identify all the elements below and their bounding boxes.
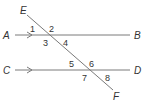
parallel-lines-diagram: E A B C D F 1 2 3 4 5 6 7 8 [0, 0, 150, 108]
transversal-ef [27, 15, 113, 90]
label-a: A [2, 30, 10, 41]
angle-3: 3 [43, 38, 48, 48]
angle-4: 4 [63, 38, 68, 48]
label-d: D [134, 65, 141, 76]
angle-6: 6 [89, 59, 94, 69]
angle-8: 8 [105, 73, 110, 83]
label-e: E [20, 5, 27, 16]
angle-7: 7 [82, 73, 87, 83]
angle-1: 1 [30, 24, 35, 34]
label-b: B [134, 30, 141, 41]
label-c: C [3, 65, 11, 76]
label-f: F [113, 91, 120, 102]
angle-2: 2 [49, 24, 54, 34]
angle-5: 5 [69, 59, 74, 69]
